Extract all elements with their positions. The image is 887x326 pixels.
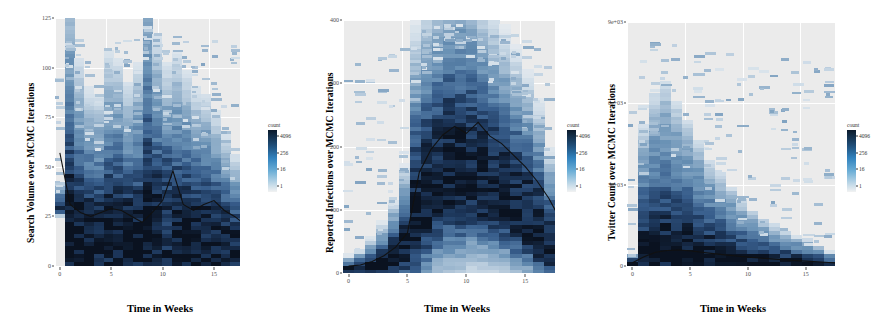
heatmap-cell — [813, 262, 824, 266]
y-axis-tick-mark — [52, 117, 54, 118]
heatmap-cell — [84, 198, 94, 202]
heatmap-cell — [671, 199, 682, 203]
y-axis-tick-label: 6e+03 — [601, 100, 623, 106]
heatmap-cell-tail — [172, 88, 182, 91]
heatmap-cell — [726, 187, 737, 191]
heatmap-cell — [824, 254, 835, 258]
heatmap-cell-tail — [704, 113, 711, 116]
heatmap-cell — [230, 250, 240, 254]
legend-tick-label: 256 — [859, 150, 867, 156]
heatmap-cell — [704, 199, 715, 203]
heatmap-cell-tail — [467, 36, 475, 39]
heatmap-cell — [113, 82, 123, 86]
heatmap-cell — [123, 198, 133, 202]
heatmap-cell — [660, 207, 671, 211]
heatmap-cell — [65, 70, 75, 74]
heatmap-cell — [638, 215, 649, 219]
heatmap-cell-tail — [628, 179, 635, 182]
heatmap-cell-tail — [705, 52, 716, 55]
heatmap-cell-tail — [466, 55, 474, 58]
heatmap-cell — [221, 190, 231, 194]
heatmap-cell-tail — [410, 98, 420, 101]
heatmap-cell-tail — [650, 49, 658, 52]
heatmap-cell — [123, 182, 133, 186]
heatmap-cell — [162, 230, 172, 234]
heatmap-cell — [715, 183, 726, 187]
heatmap-cell-tail — [628, 186, 634, 189]
heatmap-cell-tail — [803, 99, 810, 102]
heatmap-cell — [65, 106, 75, 110]
heatmap-cell — [813, 254, 824, 258]
heatmap-cell-tail — [344, 220, 353, 223]
heatmap-cell — [123, 186, 133, 190]
heatmap-cell — [162, 158, 172, 162]
heatmap-cell — [671, 235, 682, 239]
heatmap-cell — [104, 238, 114, 242]
heatmap-cell-tail — [639, 76, 645, 79]
heatmap-cell-tail — [400, 168, 408, 171]
heatmap-cell — [74, 250, 84, 254]
x-axis-tick-label: 0 — [58, 271, 61, 277]
heatmap-cell-tail — [212, 40, 218, 43]
heatmap-cell — [182, 130, 192, 134]
heatmap-cell — [65, 166, 75, 170]
heatmap-cell — [704, 175, 715, 179]
heatmap-cell-tail — [639, 121, 645, 124]
heatmap-cell — [143, 170, 153, 174]
heatmap-cell — [649, 227, 660, 231]
heatmap-cell — [191, 250, 201, 254]
heatmap-cell — [65, 94, 75, 98]
heatmap-cell — [152, 134, 162, 138]
heatmap-cell — [660, 191, 671, 195]
heatmap-cell — [162, 134, 172, 138]
heatmap-cell — [143, 18, 153, 22]
heatmap-cell — [758, 246, 769, 250]
heatmap-cell-tail — [56, 106, 65, 109]
heatmap-cell — [682, 223, 693, 227]
heatmap-cell — [94, 246, 104, 250]
heatmap-cell — [162, 254, 172, 258]
heatmap-cell — [113, 238, 123, 242]
heatmap-cell-tail — [104, 121, 109, 124]
heatmap-cell — [104, 142, 114, 146]
heatmap-cell — [736, 238, 747, 242]
heatmap-cell — [660, 262, 671, 266]
y-axis-tick-label: 75 — [29, 114, 51, 120]
gridline-horizontal — [627, 22, 835, 23]
heatmap-cell-tail — [105, 65, 110, 68]
heatmap-cell — [182, 210, 192, 214]
heatmap-cell — [152, 218, 162, 222]
heatmap-cell — [682, 191, 693, 195]
heatmap-cell — [201, 158, 211, 162]
heatmap-cell — [113, 166, 123, 170]
heatmap-cell-tail — [716, 157, 727, 160]
heatmap-cell — [758, 242, 769, 246]
heatmap-cell — [769, 242, 780, 246]
heatmap-cell-tail — [456, 24, 463, 27]
heatmap-cell — [191, 130, 201, 134]
heatmap-cell — [201, 218, 211, 222]
heatmap-cell — [113, 170, 123, 174]
y-axis-tick-mark — [624, 103, 626, 104]
heatmap-cell — [172, 226, 182, 230]
heatmap-cell — [191, 150, 201, 154]
heatmap-cell — [726, 199, 737, 203]
heatmap-cell — [74, 246, 84, 250]
panel3-x-axis-title: Time in Weeks — [653, 303, 813, 314]
heatmap-cell — [671, 105, 682, 109]
heatmap-cell — [133, 218, 143, 222]
heatmap-cell — [649, 223, 660, 227]
heatmap-cell-tail — [748, 75, 755, 78]
heatmap-cell-tail — [124, 129, 132, 132]
heatmap-cell-tail — [231, 57, 240, 60]
heatmap-cell — [152, 174, 162, 178]
heatmap-cell — [201, 214, 211, 218]
heatmap-cell — [65, 182, 75, 186]
heatmap-cell-tail — [715, 199, 725, 202]
heatmap-cell-tail — [716, 162, 726, 165]
heatmap-cell — [143, 162, 153, 166]
heatmap-cell-tail — [388, 55, 397, 58]
heatmap-cell — [191, 98, 201, 102]
heatmap-cell — [802, 254, 813, 258]
heatmap-cell — [133, 194, 143, 198]
